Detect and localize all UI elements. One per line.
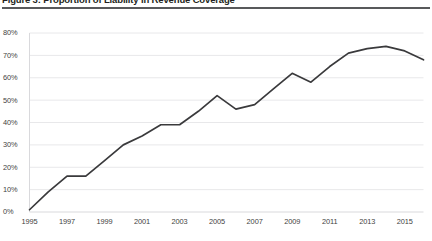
x-axis-tick-label: 2007	[238, 217, 272, 226]
chart-plot-area: 0%10%20%30%40%50%60%70%80% 1995199719992…	[0, 0, 432, 241]
x-axis-tick-label: 1999	[88, 217, 122, 226]
x-axis-tick-label: 2015	[388, 217, 422, 226]
data-series-line	[30, 46, 424, 209]
y-axis-tick-label: 80%	[3, 28, 18, 37]
x-axis-tick-label: 2013	[350, 217, 384, 226]
x-axis-tick-label: 2001	[125, 217, 159, 226]
y-axis-tick-label: 70%	[3, 51, 18, 60]
y-axis-tick-label: 40%	[3, 118, 18, 127]
x-axis-tick-label: 2003	[163, 217, 197, 226]
y-axis-tick-label: 30%	[3, 140, 18, 149]
y-axis-tick-label: 10%	[3, 185, 18, 194]
y-axis-tick-label: 50%	[3, 96, 18, 105]
figure-container: Figure 3: Proportion of Liability in Rev…	[0, 0, 432, 241]
x-axis-tick-label: 2005	[200, 217, 234, 226]
gridline-group	[30, 33, 424, 212]
x-axis-tick-label: 1997	[50, 217, 84, 226]
line-chart-svg	[0, 0, 432, 241]
x-axis-tick-label: 1995	[13, 217, 47, 226]
y-axis-tick-label: 20%	[3, 163, 18, 172]
x-axis-tick-label: 2009	[275, 217, 309, 226]
y-axis-tick-label: 60%	[3, 73, 18, 82]
x-axis-tick-label: 2011	[313, 217, 347, 226]
y-axis-tick-label: 0%	[3, 207, 13, 216]
